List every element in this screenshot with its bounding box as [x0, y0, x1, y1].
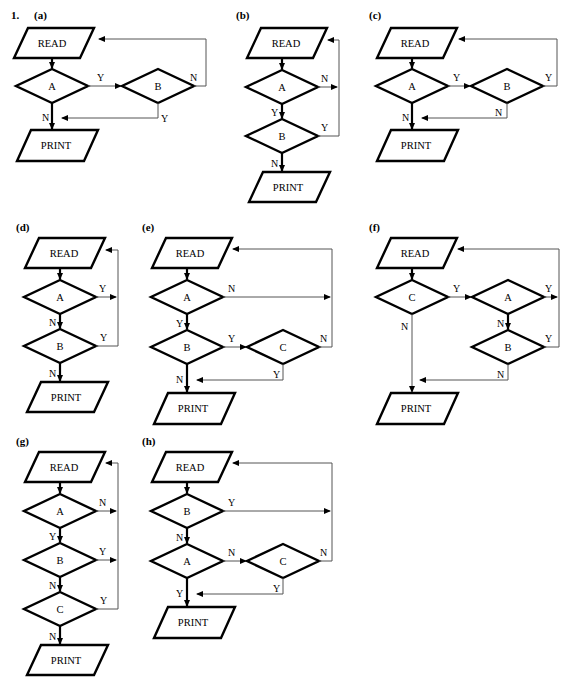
edge-label-b-n: N — [49, 580, 56, 591]
node-read-label: READ — [50, 248, 79, 259]
edge-b-print — [62, 103, 158, 118]
panel-label-f: (f) — [369, 221, 380, 233]
decision-a: A — [151, 544, 223, 578]
node-read: READ — [152, 238, 232, 268]
decision-b-label: B — [183, 506, 190, 517]
decision-a: A — [24, 280, 96, 314]
edge-label-a-y: Y — [99, 283, 106, 294]
edge-label-b-y: Y — [161, 113, 168, 124]
node-read-label: READ — [50, 462, 79, 473]
edge-label-a-n: N — [228, 547, 235, 558]
node-read-label: READ — [401, 248, 430, 259]
decision-b: B — [471, 69, 543, 103]
flowchart-panel-g: (g) READ A B C — [14, 432, 134, 680]
flowchart-a-svg: READ A B PRINT Y N — [14, 6, 229, 181]
decision-c-label: C — [408, 292, 415, 303]
edge-label-a-n: N — [42, 112, 49, 123]
flowchart-c-svg: READ A B PRINT Y N Y N — [367, 6, 567, 181]
node-read: READ — [25, 452, 105, 482]
decision-b: B — [24, 329, 96, 363]
flowchart-panel-d: (d) READ A B PRINT — [14, 218, 134, 418]
edge-label-a-n: N — [49, 317, 56, 328]
edge-label-a-y: Y — [545, 283, 552, 294]
node-print-label: PRINT — [273, 182, 304, 193]
decision-c-label: C — [279, 342, 286, 353]
flowchart-d-svg: READ A B PRINT Y N Y — [14, 218, 134, 418]
node-print: PRINT — [154, 393, 235, 424]
node-read-label: READ — [401, 38, 430, 49]
edge-label-a-y: Y — [453, 72, 460, 83]
node-print: PRINT — [377, 130, 458, 161]
flowchart-f-svg: READ C A B PRINT Y — [367, 218, 567, 430]
node-print: PRINT — [377, 393, 458, 424]
edge-label-b-y: Y — [100, 332, 107, 343]
edge-c-print — [197, 578, 283, 594]
node-read: READ — [14, 28, 94, 58]
decision-a: A — [24, 494, 96, 528]
edge-label-b-y: Y — [99, 546, 106, 557]
node-read-label: READ — [176, 462, 205, 473]
decision-c: C — [376, 280, 448, 314]
panel-label-b: (b) — [236, 9, 249, 21]
edge-c-print — [197, 364, 283, 380]
edge-label-a-y: Y — [97, 72, 104, 83]
decision-b: B — [24, 543, 96, 577]
edge-c-read — [96, 463, 118, 609]
edge-label-a-n: N — [228, 283, 235, 294]
flowchart-panel-e: (e) READ A B C — [140, 218, 365, 430]
edge-label-b-y: Y — [321, 122, 328, 133]
edge-label-c-n: N — [320, 547, 327, 558]
node-print: PRINT — [249, 172, 330, 202]
node-read: READ — [152, 452, 232, 482]
decision-a-label: A — [278, 82, 286, 93]
edge-label-c-y: Y — [100, 595, 107, 606]
node-print: PRINT — [17, 130, 98, 161]
edge-label-b-n: N — [495, 107, 502, 118]
decision-a: A — [376, 69, 448, 103]
node-read-label: READ — [272, 38, 301, 49]
node-read-label: READ — [38, 38, 67, 49]
decision-a-label: A — [183, 556, 191, 567]
decision-c-label: C — [56, 604, 63, 615]
flowchart-h-svg: READ B A C PRINT Y — [140, 432, 365, 644]
panel-label-d: (d) — [16, 221, 29, 233]
edge-label-a-n: N — [402, 112, 409, 123]
decision-a-label: A — [408, 81, 416, 92]
node-read: READ — [377, 238, 457, 268]
decision-b-label: B — [154, 81, 161, 92]
flowchart-panel-c: (c) READ A B PRINT — [367, 6, 567, 181]
flowchart-e-svg: READ A B C PRINT N — [140, 218, 365, 430]
decision-c: C — [24, 592, 96, 626]
edge-label-b-n: N — [176, 532, 183, 543]
decision-b: B — [472, 330, 544, 364]
decision-a: A — [16, 69, 88, 103]
edge-label-c-n: N — [320, 333, 327, 344]
decision-b: B — [246, 119, 318, 153]
node-print-label: PRINT — [51, 655, 82, 666]
node-print-label: PRINT — [401, 140, 432, 151]
decision-b-label: B — [56, 341, 63, 352]
edge-label-a-y: Y — [271, 107, 278, 118]
decision-a: A — [246, 70, 318, 104]
flowchart-panel-a: (a) READ A B — [14, 6, 229, 181]
node-print: PRINT — [27, 645, 108, 675]
decision-c: C — [247, 330, 319, 364]
node-print-label: PRINT — [178, 403, 209, 414]
panel-label-c: (c) — [369, 9, 381, 21]
node-print-label: PRINT — [51, 392, 82, 403]
node-print-label: PRINT — [401, 403, 432, 414]
decision-b: B — [151, 330, 223, 364]
node-read-label: READ — [176, 248, 205, 259]
node-print-label: PRINT — [41, 140, 72, 151]
edge-label-c-y: Y — [273, 369, 280, 380]
edge-label-b-n: N — [190, 72, 197, 83]
decision-c: C — [247, 544, 319, 578]
panel-label-h: (h) — [142, 435, 155, 447]
node-print: PRINT — [154, 607, 235, 638]
edge-label-b-n: N — [497, 369, 504, 380]
node-print: PRINT — [27, 382, 108, 412]
flowchart-panel-f: (f) READ C A B — [367, 218, 567, 430]
flowchart-b-svg: READ A B PRINT N Y Y — [233, 6, 353, 206]
node-read: READ — [247, 28, 327, 58]
edge-label-c-n: N — [49, 631, 56, 642]
